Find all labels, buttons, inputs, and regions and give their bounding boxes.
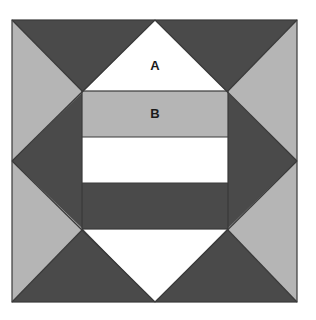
geometric-pattern-svg: A B	[0, 0, 316, 320]
center-band-dark	[82, 183, 228, 229]
label-a: A	[150, 58, 160, 73]
label-b: B	[150, 106, 159, 121]
center-band-white	[82, 137, 228, 183]
figure-root: A B	[0, 0, 316, 320]
